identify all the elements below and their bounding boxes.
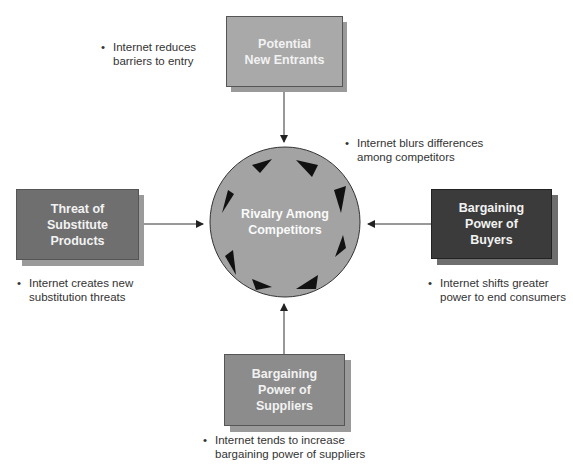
note-substitutes: •Internet creates new substitution threa… — [17, 276, 133, 304]
buyers-power-box: Bargaining Power of Buyers — [431, 189, 552, 259]
note-suppliers: •Internet tends to increase bargaining p… — [203, 433, 365, 461]
note-new-entrants: •Internet reduces barriers to entry — [101, 40, 196, 68]
suppliers-power-box: Bargaining Power of Suppliers — [224, 354, 345, 426]
threat-of-substitutes-box: Threat of Substitute Products — [16, 189, 139, 260]
note-rivalry: •Internet blurs differences among compet… — [345, 136, 483, 164]
potential-new-entrants-box: Potential New Entrants — [226, 16, 343, 87]
note-buyers: •Internet shifts greater power to end co… — [428, 276, 566, 304]
rivalry-label: Rivalry Among Competitors — [225, 202, 345, 242]
